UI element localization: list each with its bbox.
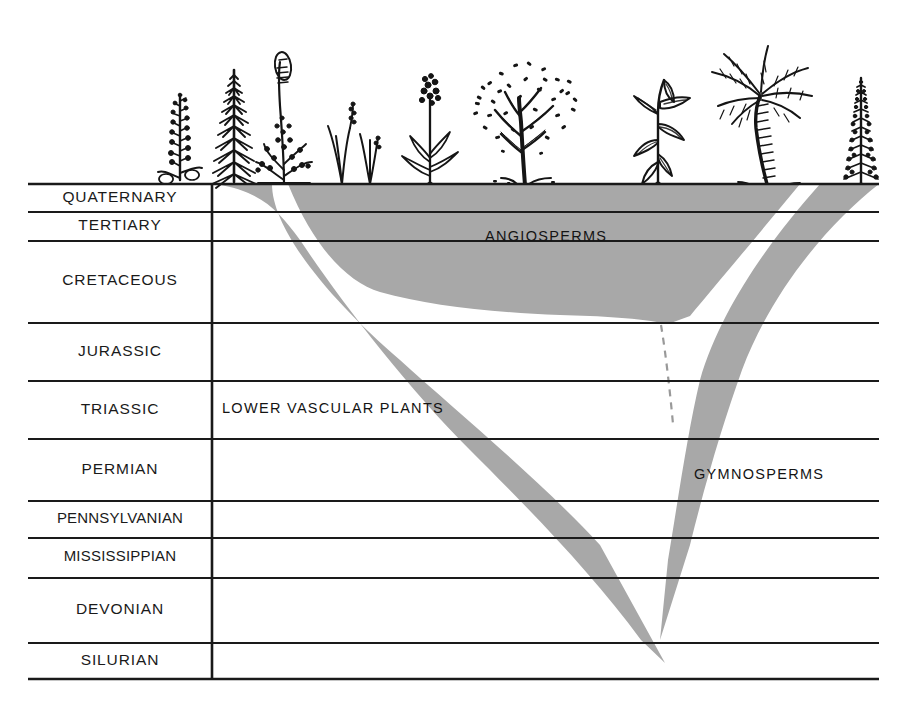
period-label-tertiary: TERTIARY: [28, 216, 212, 234]
group-label-gymnosperms: GYMNOSPERMS: [694, 466, 824, 482]
period-label-jurassic: JURASSIC: [28, 342, 212, 360]
plant-evolution-figure: QUATERNARY TERTIARY CRETACEOUS JURASSIC …: [0, 0, 905, 710]
period-label-silurian: SILURIAN: [28, 651, 212, 669]
period-label-triassic: TRIASSIC: [28, 400, 212, 418]
period-label-pennsylvanian: PENNSYLVANIAN: [26, 509, 214, 526]
period-label-permian: PERMIAN: [28, 460, 212, 478]
group-label-angiosperms: ANGIOSPERMS: [485, 228, 607, 244]
period-label-cretaceous: CRETACEOUS: [28, 271, 212, 289]
period-label-quaternary: QUATERNARY: [28, 188, 212, 206]
period-label-devonian: DEVONIAN: [28, 600, 212, 618]
period-label-mississippian: MISSISSIPPIAN: [26, 547, 214, 564]
group-label-lower-vascular-plants: LOWER VASCULAR PLANTS: [222, 400, 444, 416]
